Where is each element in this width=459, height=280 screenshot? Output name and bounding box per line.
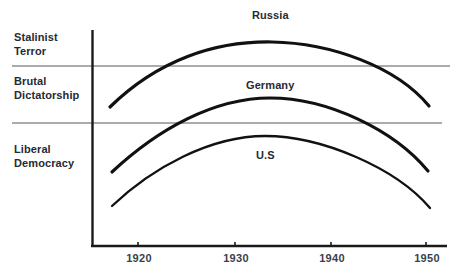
band-label-brutal-dictatorship: Brutal Dictatorship (14, 75, 79, 102)
series-curve-us (112, 136, 430, 208)
band-label-liberal-democracy: Liberal Democracy (14, 143, 74, 170)
chart-canvas (0, 0, 459, 280)
series-label-germany: Germany (246, 79, 294, 91)
band-label-stalinist-terror: Stalinist Terror (14, 31, 58, 58)
political-regime-chart: Stalinist Terror Brutal Dictatorship Lib… (0, 0, 459, 280)
series-label-russia: Russia (252, 9, 289, 21)
x-tick-label-1950: 1950 (414, 252, 440, 264)
x-tick-label-1920: 1920 (126, 252, 152, 264)
x-tick-label-1930: 1930 (223, 252, 249, 264)
series-label-us: U.S (256, 149, 275, 161)
x-tick-label-1940: 1940 (319, 252, 345, 264)
